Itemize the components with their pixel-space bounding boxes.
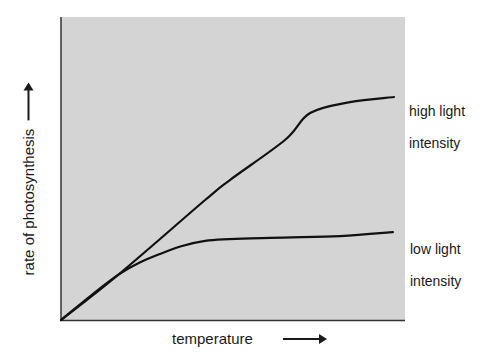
x-axis-label: temperature (172, 330, 325, 347)
y-axis-label: rate of photosynthesis (20, 85, 37, 276)
series-label-low-line1: low light (410, 241, 461, 257)
series-label-low-light: low light intensity (410, 225, 461, 305)
series-label-low-line2: intensity (410, 273, 461, 289)
series-label-high-line2: intensity (409, 135, 465, 151)
series-label-high-line1: high light (409, 103, 465, 119)
plot-area (61, 17, 405, 320)
x-axis-title: temperature (172, 330, 253, 347)
arrow-right-icon (283, 338, 325, 340)
arrow-up-icon (27, 85, 29, 121)
y-axis-title: rate of photosynthesis (20, 129, 37, 276)
series-label-high-light: high light intensity (409, 87, 465, 167)
chart-canvas (0, 0, 495, 360)
